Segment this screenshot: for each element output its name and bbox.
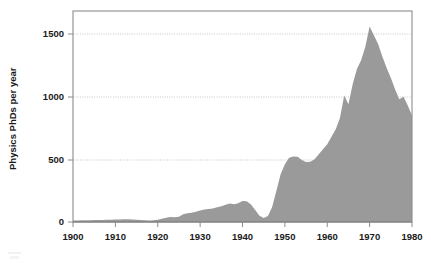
y-tick-label-1000: 1000 bbox=[43, 91, 64, 102]
x-tick-label-1910: 1910 bbox=[105, 231, 126, 242]
y-tick-label-1500: 1500 bbox=[43, 28, 64, 39]
x-tick-label-1920: 1920 bbox=[147, 231, 168, 242]
x-tick-label-1930: 1930 bbox=[190, 231, 211, 242]
x-tick-labels: 190019101920193019401950196019701980 bbox=[62, 231, 422, 242]
y-tick-label-0: 0 bbox=[59, 216, 64, 227]
x-tick-label-1970: 1970 bbox=[359, 231, 380, 242]
x-tick-label-1950: 1950 bbox=[274, 231, 295, 242]
physics-phds-area-chart: Physics PhDs per year 1500 1000 500 0 bbox=[0, 0, 431, 264]
x-tick-label-1960: 1960 bbox=[317, 231, 338, 242]
x-tick-label-1980: 1980 bbox=[401, 231, 422, 242]
x-tick-label-1940: 1940 bbox=[232, 231, 253, 242]
y-tick-label-500: 500 bbox=[48, 154, 64, 165]
chart-figure: Physics PhDs per year 1500 1000 500 0 bbox=[0, 0, 431, 264]
x-tick-label-1900: 1900 bbox=[62, 231, 83, 242]
y-axis-label: Physics PhDs per year bbox=[7, 67, 18, 170]
